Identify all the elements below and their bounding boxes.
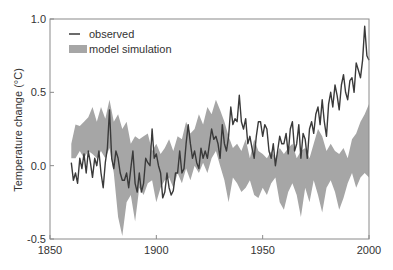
x-tick-label: 1900 xyxy=(144,244,168,256)
y-axis-title: Temperature change (°C) xyxy=(12,68,24,192)
x-tick-label: 1850 xyxy=(38,244,62,256)
temperature-chart: 1850190019502000 -0.50.00.51.0 Temperatu… xyxy=(0,0,393,270)
y-tick-label: 1.0 xyxy=(31,13,46,25)
legend-observed-label: observed xyxy=(89,28,134,40)
legend: observed model simulation xyxy=(69,28,172,55)
x-tick-label: 2000 xyxy=(357,244,381,256)
y-tick-label: -0.5 xyxy=(27,233,46,245)
legend-model-swatch xyxy=(69,45,87,53)
legend-model-label: model simulation xyxy=(89,43,172,55)
x-axis: 1850190019502000 xyxy=(38,235,381,256)
x-tick-label: 1950 xyxy=(250,244,274,256)
y-tick-label: 0.0 xyxy=(31,160,46,172)
y-tick-label: 0.5 xyxy=(31,86,46,98)
